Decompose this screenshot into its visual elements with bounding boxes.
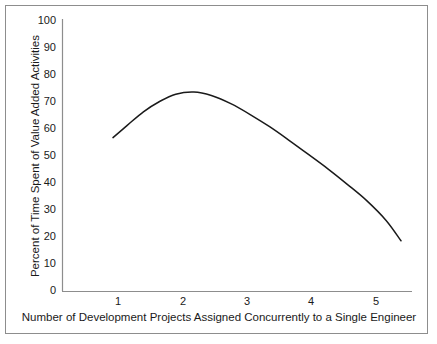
- chart-figure: 100 90 80 70 60 50 40 30 20 10 0 1 2 3 4…: [0, 0, 437, 344]
- x-tick-label: 1: [106, 296, 130, 307]
- y-tick-label: 0: [30, 285, 56, 296]
- y-axis-title: Percent of Time Spent of Value Added Act…: [29, 26, 41, 286]
- x-axis-title: Number of Development Projects Assigned …: [14, 311, 424, 323]
- plot-canvas: [0, 0, 437, 344]
- y-tick-label: 100: [30, 15, 56, 26]
- x-tick-label: 3: [235, 296, 259, 307]
- x-tick-label: 4: [299, 296, 323, 307]
- x-tick-label: 2: [171, 296, 195, 307]
- data-series-line: [113, 92, 401, 241]
- x-tick-label: 5: [364, 296, 388, 307]
